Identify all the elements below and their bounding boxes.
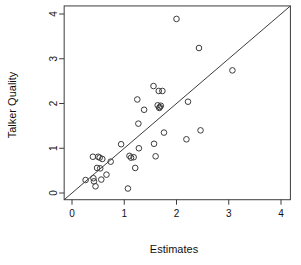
y-tick-label: 0 — [48, 190, 59, 196]
scatter-plot-figure: 01234 01234 Estimates Talker Quality — [0, 0, 301, 265]
x-tick-label: 2 — [174, 208, 180, 219]
y-tick-label: 3 — [48, 56, 59, 62]
data-point-marker — [161, 130, 167, 136]
data-point-marker — [136, 145, 142, 151]
plot-canvas: 01234 01234 Estimates Talker Quality — [0, 0, 301, 265]
x-axis-title: Estimates — [150, 243, 199, 255]
data-point-marker — [98, 177, 104, 183]
data-point-marker — [185, 99, 191, 105]
data-points — [83, 16, 235, 191]
data-point-marker — [136, 121, 142, 127]
data-point-marker — [151, 141, 157, 147]
y-axis-ticks: 01234 — [48, 11, 65, 196]
data-point-marker — [135, 97, 141, 103]
y-tick-label: 1 — [48, 145, 59, 151]
data-point-marker — [93, 183, 99, 189]
data-point-marker — [141, 107, 147, 113]
data-point-marker — [151, 83, 157, 89]
y-tick-label: 2 — [48, 100, 59, 106]
data-point-marker — [160, 88, 166, 94]
data-point-marker — [153, 154, 159, 160]
x-tick-label: 0 — [69, 208, 75, 219]
x-tick-label: 4 — [278, 208, 284, 219]
y-tick-label: 4 — [48, 11, 59, 17]
y-axis-title: Talker Quality — [6, 71, 18, 138]
x-tick-label: 3 — [226, 208, 232, 219]
data-point-marker — [230, 68, 236, 74]
data-point-marker — [118, 141, 124, 147]
data-point-marker — [132, 165, 138, 171]
data-point-marker — [104, 172, 110, 178]
data-point-marker — [125, 186, 131, 192]
data-point-marker — [184, 137, 190, 143]
data-point-marker — [198, 128, 204, 134]
data-point-marker — [174, 16, 180, 22]
x-tick-label: 1 — [121, 208, 127, 219]
data-point-marker — [196, 45, 202, 51]
x-axis-ticks: 01234 — [69, 200, 284, 219]
